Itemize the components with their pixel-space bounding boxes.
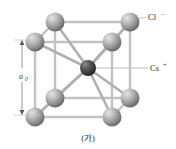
anion-sphere-front-bottom-left — [26, 108, 45, 127]
anion-sphere-front-top-right — [103, 33, 122, 52]
unit-cell-svg: a 0 Cl − Cs + (가) — [0, 0, 176, 149]
label-cation: Cs — [150, 63, 159, 73]
anion-sphere-back-top-right — [121, 13, 140, 32]
label-anion: Cl — [148, 12, 157, 22]
anion-sphere-back-top-left — [46, 13, 65, 32]
dimension-label-subscript: 0 — [25, 76, 28, 82]
anion-sphere-back-bottom-right — [121, 89, 140, 108]
anion-sphere-front-bottom-right — [103, 108, 122, 127]
dimension-label: a — [19, 72, 23, 81]
figure-caption: (가) — [81, 133, 95, 143]
anion-sphere-front-top-left — [26, 33, 45, 52]
cation-sphere-body-center — [80, 60, 96, 76]
cscl-unit-cell-figure: a 0 Cl − Cs + (가) — [0, 0, 176, 149]
anion-sphere-back-bottom-left — [46, 89, 65, 108]
